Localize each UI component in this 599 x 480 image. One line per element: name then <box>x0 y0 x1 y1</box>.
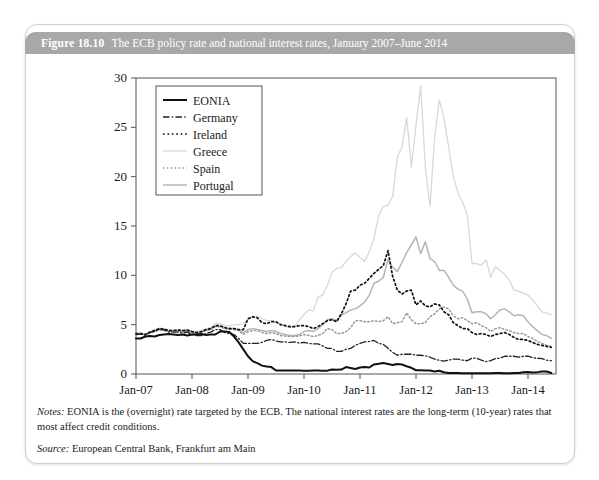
notes-text: EONIA is the (overnight) rate targeted b… <box>37 406 552 432</box>
x-axis-tick-label: Jan-11 <box>344 383 377 395</box>
y-axis-tick-label: 25 <box>114 119 127 134</box>
legend-label-ireland: Ireland <box>193 128 227 142</box>
notes-label: Notes: <box>37 406 64 417</box>
x-axis-tick-label: Jan-14 <box>511 383 545 395</box>
y-axis-tick-label: 20 <box>114 169 127 184</box>
x-axis-tick-label: Jan-07 <box>119 383 152 395</box>
legend-label-spain: Spain <box>193 162 220 176</box>
series-line-spain <box>136 307 551 346</box>
series-line-eonia <box>136 332 551 374</box>
notes-divider <box>34 398 566 399</box>
line-chart: 051015202530Jan-07Jan-08Jan-09Jan-10Jan-… <box>28 57 572 395</box>
source-text: European Central Bank, Frankfurt am Main <box>72 443 256 454</box>
chart-plot-area: 051015202530Jan-07Jan-08Jan-09Jan-10Jan-… <box>28 57 572 395</box>
figure-page: Figure 18.10 The ECB policy rate and nat… <box>0 0 599 480</box>
legend-label-greece: Greece <box>193 145 227 159</box>
figure-notes: Notes: EONIA is the (overnight) rate tar… <box>37 404 565 434</box>
y-axis-tick-label: 15 <box>114 218 127 233</box>
figure-title-bar: Figure 18.10 The ECB policy rate and nat… <box>25 32 575 54</box>
figure-source: Source: European Central Bank, Frankfurt… <box>37 443 565 454</box>
x-axis-tick-label: Jan-12 <box>399 383 432 395</box>
x-axis-tick-label: Jan-09 <box>231 383 264 395</box>
chart-legend: EONIAGermanyIrelandGreeceSpainPortugal <box>156 86 262 195</box>
legend-label-portugal: Portugal <box>193 179 234 193</box>
y-axis-tick-label: 0 <box>121 366 128 381</box>
x-axis-tick-label: Jan-13 <box>455 383 488 395</box>
figure-number: Figure 18.10 <box>41 37 105 49</box>
y-axis-tick-label: 10 <box>114 267 127 282</box>
y-axis-tick-label: 5 <box>121 317 128 332</box>
legend-label-eonia: EONIA <box>193 94 231 108</box>
legend-label-germany: Germany <box>193 111 238 125</box>
x-axis-tick-label: Jan-10 <box>287 383 320 395</box>
y-axis-tick-label: 30 <box>114 70 127 85</box>
x-axis-tick-label: Jan-08 <box>175 383 208 395</box>
series-line-portugal <box>136 237 551 339</box>
figure-title-text: The ECB policy rate and national interes… <box>112 37 448 49</box>
source-label: Source: <box>37 443 69 454</box>
